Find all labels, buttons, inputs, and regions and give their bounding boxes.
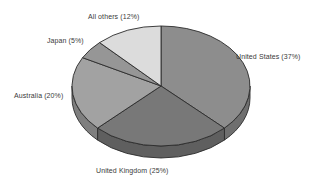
slice-label-united-states: United States (37%)	[236, 53, 301, 60]
slice-label-all-others: All others (12%)	[88, 13, 139, 20]
slice-label-japan: Japan (5%)	[47, 37, 84, 44]
slice-label-australia: Australia (20%)	[14, 92, 63, 99]
pie-slices	[72, 26, 250, 146]
pie-chart: United States (37%) United Kingdom (25%)…	[0, 0, 322, 187]
slice-label-united-kingdom: United Kingdom (25%)	[96, 167, 168, 174]
